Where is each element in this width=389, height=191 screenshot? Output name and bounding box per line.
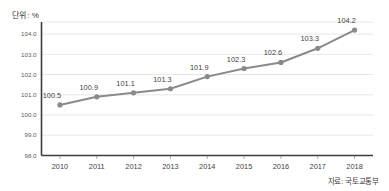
line-chart-plot: 98.099.0100.0101.0102.0103.0104.0 100.51… (0, 0, 389, 191)
x-axis-tick-label: 2016 (273, 162, 289, 171)
y-axis-tick-label: 100.0 (21, 111, 37, 118)
x-axis-tick-label: 2017 (310, 162, 326, 171)
data-point-marker (278, 60, 283, 65)
x-axis-tick-label: 2018 (346, 162, 362, 171)
data-point-marker (57, 102, 62, 107)
data-point-marker (94, 94, 99, 99)
data-point-label: 101.3 (153, 75, 172, 84)
data-point-label: 104.2 (337, 16, 356, 25)
chart-container: 단위 : % 98.099.0100.0101.0102.0103.0104.0… (0, 0, 389, 191)
x-axis-tick-label: 2011 (89, 162, 105, 171)
data-point-labels: 100.5100.9101.1101.3101.9102.3102.6103.3… (43, 16, 356, 100)
y-axis-tick-label: 104.0 (21, 30, 37, 37)
data-point-label: 101.9 (190, 63, 209, 72)
y-axis-tick-label: 99.0 (24, 131, 37, 138)
data-point-label: 100.5 (43, 91, 62, 100)
data-point-label: 101.1 (116, 79, 135, 88)
x-axis-tick-label: 2010 (52, 162, 68, 171)
data-point-label: 102.3 (227, 55, 246, 64)
data-point-marker (168, 86, 173, 91)
x-axis-tick-label: 2015 (236, 162, 252, 171)
x-axis-tick-labels: 201020112012201320142015201620172018 (52, 162, 363, 171)
source-attribution: 자료: 국토교통부 (328, 175, 379, 186)
y-axis-tick-label: 102.0 (21, 71, 37, 78)
data-point-label: 100.9 (80, 83, 99, 92)
x-axis-tick-label: 2013 (162, 162, 178, 171)
data-point-marker (315, 46, 320, 51)
x-axis-tick-label: 2012 (125, 162, 141, 171)
data-point-label: 102.6 (264, 48, 283, 57)
y-axis-tick-labels: 98.099.0100.0101.0102.0103.0104.0 (21, 30, 37, 158)
data-point-label: 103.3 (301, 34, 320, 43)
data-point-marker (241, 66, 246, 71)
y-axis-tick-label: 101.0 (21, 91, 37, 98)
data-point-marker (352, 27, 357, 32)
y-axis-tick-label: 98.0 (24, 152, 37, 159)
data-point-marker (131, 90, 136, 95)
y-axis-tick-label: 103.0 (21, 51, 37, 58)
data-point-marker (205, 74, 210, 79)
x-axis-tick-label: 2014 (199, 162, 215, 171)
